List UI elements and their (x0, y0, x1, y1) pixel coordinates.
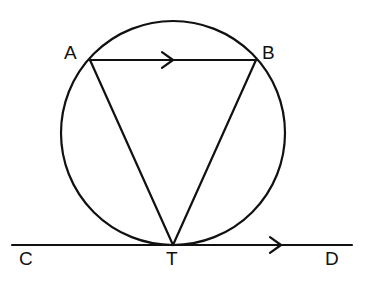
vertex-label-c: C (19, 249, 33, 268)
geometry-canvas (0, 0, 366, 282)
circumscribed-circle (61, 21, 285, 245)
vertex-label-t: T (166, 249, 178, 268)
vertex-label-a: A (64, 43, 77, 62)
side-bt-segment (173, 60, 256, 245)
side-at-segment (90, 60, 173, 245)
vertex-label-b: B (262, 43, 275, 62)
vertex-label-d: D (325, 249, 339, 268)
geometry-figure: A B T C D (0, 0, 366, 282)
